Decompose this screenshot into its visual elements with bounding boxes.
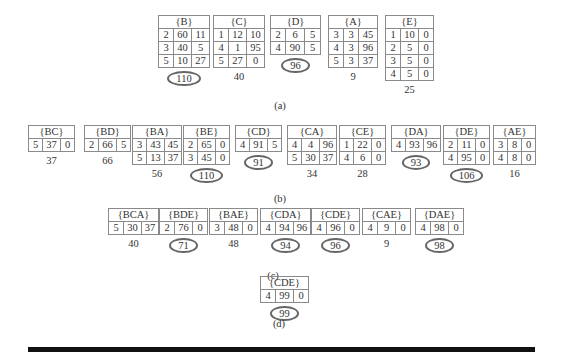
- cell: 0: [294, 290, 309, 303]
- cell: 0: [372, 152, 386, 165]
- cell: 3: [159, 42, 174, 55]
- support-value-circled: 96: [270, 57, 321, 71]
- cell: 0: [522, 152, 536, 165]
- cell: 0: [419, 68, 434, 81]
- support-value: 48: [209, 237, 258, 251]
- cell: 4: [363, 222, 378, 235]
- cell: 96: [359, 42, 378, 55]
- support-value-circled: 110: [183, 167, 230, 181]
- cell: 0: [476, 152, 490, 165]
- cell: 4: [392, 139, 406, 152]
- cell: 13: [147, 152, 165, 165]
- cell: 5: [305, 42, 321, 55]
- cell: 1: [214, 29, 229, 42]
- cell: 0: [345, 222, 360, 235]
- cell: 0: [419, 42, 434, 55]
- itemset-table: {B}26011340551027110: [158, 15, 210, 84]
- itemset-table: {DAE}498098: [415, 208, 464, 251]
- cell: 6: [286, 29, 305, 42]
- itemset-table: {DA}4939693: [391, 125, 441, 168]
- itemset-name: {CDE}: [261, 277, 309, 290]
- cell: 1: [229, 42, 247, 55]
- cell: 76: [175, 222, 193, 235]
- cell: 93: [406, 139, 424, 152]
- cell: 4: [288, 139, 302, 152]
- cell: 2: [159, 29, 174, 42]
- cell: 22: [354, 139, 372, 152]
- cell: 5: [133, 152, 147, 165]
- cell: 5: [159, 55, 174, 68]
- cell: 0: [193, 222, 208, 235]
- cell: 8: [508, 139, 522, 152]
- cell: 30: [124, 222, 142, 235]
- cell: 37: [359, 55, 378, 68]
- itemset-table: {BD}266566: [84, 125, 131, 168]
- cell: 10: [174, 55, 192, 68]
- support-value-circled: 93: [391, 154, 441, 168]
- cell: 2: [160, 222, 175, 235]
- itemset-table: {E}110025035045025: [385, 15, 434, 97]
- cell: 4: [494, 152, 508, 165]
- itemset-table: {BC}537037: [28, 125, 75, 168]
- subfigure-label: (a): [265, 100, 295, 111]
- cell: 3: [210, 222, 225, 235]
- cell: 27: [229, 55, 247, 68]
- itemset-name: {C}: [214, 16, 265, 29]
- cell: 9: [378, 222, 396, 235]
- cell: 0: [476, 139, 490, 152]
- cell: 8: [508, 152, 522, 165]
- cell: 12: [229, 29, 247, 42]
- support-value: 56: [132, 167, 182, 181]
- cell: 30: [302, 152, 320, 165]
- cell: 5: [401, 68, 419, 81]
- itemset-name: {A}: [329, 16, 378, 29]
- cell: 3: [344, 42, 359, 55]
- itemset-table: {BE}26503450110: [183, 125, 230, 181]
- cell: 2: [85, 139, 99, 152]
- itemset-table: {CD}491591: [235, 125, 282, 168]
- support-value-circled: 91: [235, 154, 282, 168]
- cell: 37: [165, 152, 182, 165]
- cell: 0: [396, 222, 411, 235]
- cell: 45: [198, 152, 216, 165]
- itemset-table: {A}3345439653379: [328, 15, 378, 84]
- support-value-circled: 98: [415, 237, 464, 251]
- cell: 2: [444, 139, 458, 152]
- cell: 95: [247, 42, 265, 55]
- itemset-name: {BD}: [85, 126, 131, 139]
- support-value: 16: [493, 167, 536, 181]
- cell: 45: [359, 29, 378, 42]
- cell: 5: [268, 139, 282, 152]
- itemset-name: {B}: [159, 16, 210, 29]
- cell: 10: [401, 29, 419, 42]
- support-value-circled: 110: [158, 70, 210, 84]
- cell: 95: [458, 152, 476, 165]
- cell: 99: [276, 290, 294, 303]
- itemset-table: {CAE}4909: [362, 208, 411, 251]
- cell: 4: [261, 222, 276, 235]
- itemset-table: {BAE}348048: [209, 208, 258, 251]
- cell: 4: [236, 139, 250, 152]
- cell: 65: [198, 139, 216, 152]
- itemset-name: {CDA}: [261, 209, 311, 222]
- cell: 27: [192, 55, 210, 68]
- support-value: 40: [213, 70, 265, 84]
- cell: 0: [216, 139, 230, 152]
- cell: 96: [424, 139, 441, 152]
- cell: 37: [43, 139, 61, 152]
- cell: 4: [444, 152, 458, 165]
- support-value-circled: 99: [260, 305, 309, 319]
- itemset-name: {CAE}: [363, 209, 411, 222]
- cell: 11: [192, 29, 210, 42]
- cell: 43: [147, 139, 165, 152]
- cell: 40: [174, 42, 192, 55]
- support-value-circled: 106: [443, 167, 490, 181]
- support-value: 9: [328, 70, 378, 84]
- cell: 60: [174, 29, 192, 42]
- itemset-name: {BAE}: [210, 209, 258, 222]
- cell: 0: [522, 139, 536, 152]
- support-value: 9: [362, 237, 411, 251]
- itemset-name: {BE}: [184, 126, 230, 139]
- cell: 5: [401, 55, 419, 68]
- subfigure-label: (d): [264, 318, 294, 329]
